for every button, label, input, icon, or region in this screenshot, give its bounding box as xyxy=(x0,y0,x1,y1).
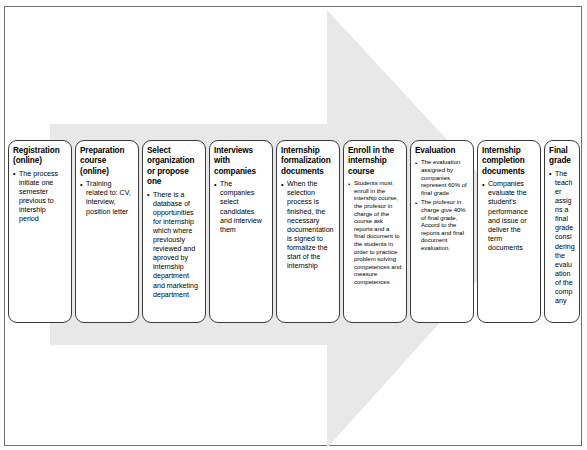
step-title: Interviews with companies xyxy=(214,146,268,177)
step-bullets: When the selection process is finished, … xyxy=(281,180,335,271)
step-box-final-grade[interactable]: Final grade The teacher assigns a final … xyxy=(544,140,580,323)
step-title: Final grade xyxy=(549,146,575,167)
step-title: Enroll in the internship course xyxy=(348,146,402,177)
step-box-enroll-course[interactable]: Enroll in the internship course Students… xyxy=(343,140,407,323)
step-box-preparation-course[interactable]: Preparation course (online) Training rel… xyxy=(75,140,139,323)
step-bullets: The companies select candidates and inte… xyxy=(214,180,268,235)
step-title: Preparation course (online) xyxy=(80,146,134,177)
step-bullet: Companies evaluate the student's perform… xyxy=(482,180,536,253)
step-box-select-organization[interactable]: Select organization or propose one There… xyxy=(142,140,206,323)
step-bullet: The companies select candidates and inte… xyxy=(214,180,268,235)
step-bullets: The process initiate one semester previo… xyxy=(13,170,67,225)
step-bullet: Training related to: CV, interview, posi… xyxy=(80,180,134,216)
step-title: Internship completion documents xyxy=(482,146,536,177)
step-box-interviews[interactable]: Interviews with companies The companies … xyxy=(209,140,273,323)
step-title: Select organization or propose one xyxy=(147,146,201,188)
step-title: Evaluation xyxy=(415,146,469,156)
step-box-registration[interactable]: Registration (online) The process initia… xyxy=(8,140,72,323)
diagram-canvas: Registration (online) The process initia… xyxy=(0,0,587,450)
step-bullet: The evaluation assigned by companies rep… xyxy=(415,159,469,197)
step-bullet: The profesor in charge give 40% of final… xyxy=(415,199,469,252)
step-box-formalization-documents[interactable]: Internship formalization documents When … xyxy=(276,140,340,323)
step-title: Registration (online) xyxy=(13,146,67,167)
step-bullets: The teacher assigns a final grade consid… xyxy=(549,170,575,306)
step-bullet: The process initiate one semester previo… xyxy=(13,170,67,225)
step-bullets: Companies evaluate the student's perform… xyxy=(482,180,536,253)
step-box-evaluation[interactable]: Evaluation The evaluation assigned by co… xyxy=(410,140,474,323)
step-bullet: There is a database of opportunities for… xyxy=(147,191,201,300)
step-bullets: There is a database of opportunities for… xyxy=(147,191,201,300)
process-steps: Registration (online) The process initia… xyxy=(0,0,587,450)
step-bullets: Training related to: CV, interview, posi… xyxy=(80,180,134,216)
step-bullet: When the selection process is finished, … xyxy=(281,180,335,271)
step-box-completion-documents[interactable]: Internship completion documents Companie… xyxy=(477,140,541,323)
step-bullets: Students must enroll in the intership co… xyxy=(348,180,402,286)
step-title: Internship formalization documents xyxy=(281,146,335,177)
step-bullet: The teacher assigns a final grade consid… xyxy=(549,170,575,306)
step-bullets: The evaluation assigned by companies rep… xyxy=(415,159,469,252)
step-bullet: Students must enroll in the intership co… xyxy=(348,180,402,286)
